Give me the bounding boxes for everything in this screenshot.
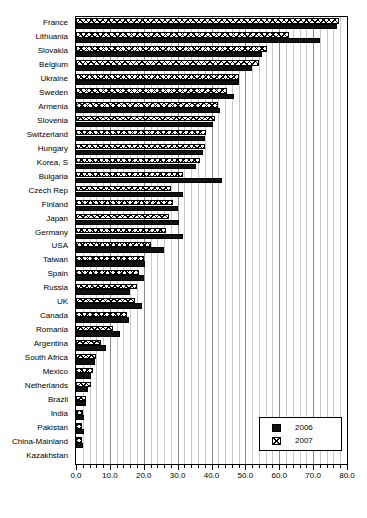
bar-2007 [76, 410, 83, 415]
category-label: Hungary [38, 145, 68, 153]
category-label: Korea, S [37, 159, 68, 167]
bar-2007 [76, 270, 139, 275]
bar-2007 [76, 242, 151, 247]
bar-2007 [76, 200, 173, 205]
bar-2006 [76, 108, 220, 113]
bar-row [76, 241, 347, 255]
category-label: France [43, 19, 68, 27]
x-tick [218, 465, 219, 468]
bar-2006 [76, 247, 164, 252]
category-label: Sweden [39, 89, 68, 97]
bar-2007 [76, 437, 82, 442]
bar-row [76, 129, 347, 143]
bar-row [76, 59, 347, 73]
category-label: Argentina [34, 340, 68, 348]
bar-row [76, 87, 347, 101]
x-tick-label: 20.0 [136, 471, 152, 481]
bar-row [76, 17, 347, 31]
bar-row [76, 380, 347, 394]
x-tick [164, 465, 165, 468]
bar-2006 [76, 192, 183, 197]
bar-2007 [76, 144, 205, 149]
x-tick [205, 465, 206, 468]
x-tick [327, 465, 328, 468]
bar-2007 [76, 228, 166, 233]
x-tick [184, 465, 185, 468]
legend-item-2006: 2006 [264, 421, 337, 434]
bar-2007 [76, 60, 259, 65]
legend-label-2007: 2007 [295, 437, 313, 445]
bar-2006 [76, 38, 320, 43]
category-label: Spain [48, 270, 68, 278]
bar-2006 [76, 401, 86, 406]
x-tick [171, 465, 172, 468]
x-tick [266, 465, 267, 468]
x-tick [76, 465, 77, 470]
bar-2007 [76, 396, 86, 401]
x-tick [151, 465, 152, 468]
bar-row [76, 296, 347, 310]
bar-2007 [76, 423, 82, 428]
category-label: Bulgaria [39, 173, 68, 181]
bar-2007 [76, 158, 200, 163]
x-tick [300, 465, 301, 468]
category-label: China-Mainland [12, 438, 68, 446]
category-label: Lithuania [36, 33, 68, 41]
bar-row [76, 115, 347, 129]
bar-2006 [76, 289, 130, 294]
category-label: Finland [42, 201, 68, 209]
legend-label-2006: 2006 [295, 424, 313, 432]
x-tick [279, 465, 280, 470]
chart-legend: 2006 2007 [259, 417, 342, 451]
x-axis-labels: 0.010.020.030.040.050.060.070.080.0 [0, 471, 367, 485]
x-tick-label: 10.0 [102, 471, 118, 481]
bar-2006 [76, 66, 252, 71]
x-tick [178, 465, 179, 470]
bar-2006 [76, 331, 120, 336]
bar-row [76, 227, 347, 241]
x-tick [90, 465, 91, 468]
bar-2006 [76, 317, 129, 322]
bar-row [76, 171, 347, 185]
bar-row [76, 450, 347, 464]
bar-row [76, 324, 347, 338]
bar-2006 [76, 80, 239, 85]
x-tick [313, 465, 314, 470]
bar-2007 [76, 256, 144, 261]
bar-2007 [76, 74, 239, 79]
bar-2007 [76, 340, 101, 345]
bar-row [76, 282, 347, 296]
bar-2006 [76, 150, 203, 155]
chart-root: FranceLithuaniaSlovakiaBelgiumUkraineSwe… [0, 0, 367, 518]
bar-row [76, 213, 347, 227]
bar-2006 [76, 303, 142, 308]
category-label: Russia [44, 284, 68, 292]
bar-2006 [76, 122, 213, 127]
bar-rows [76, 17, 347, 464]
category-label: Czech Rep [28, 187, 68, 195]
category-label: Pakistan [37, 424, 68, 432]
category-axis-labels: FranceLithuaniaSlovakiaBelgiumUkraineSwe… [0, 16, 72, 465]
bar-2006 [76, 415, 84, 420]
bar-row [76, 31, 347, 45]
bar-2007 [76, 46, 267, 51]
bar-row [76, 254, 347, 268]
bar-2006 [76, 275, 144, 280]
x-tick [157, 465, 158, 468]
bar-2006 [76, 387, 88, 392]
bar-row [76, 45, 347, 59]
category-label: Canada [40, 312, 68, 320]
bar-2007 [76, 298, 135, 303]
bar-row [76, 394, 347, 408]
x-tick [306, 465, 307, 468]
bar-2006 [76, 136, 205, 141]
category-label: Taiwan [43, 256, 68, 264]
bar-2006 [76, 234, 183, 239]
x-tick [96, 465, 97, 468]
category-label: Brazil [48, 396, 68, 404]
bar-2007 [76, 18, 339, 23]
x-tick [252, 465, 253, 468]
x-tick [123, 465, 124, 468]
category-label: South Africa [25, 354, 68, 362]
x-tick [259, 465, 260, 468]
